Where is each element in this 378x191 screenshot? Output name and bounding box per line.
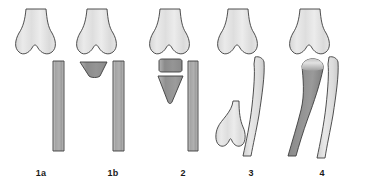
block-fragment-icon (159, 59, 182, 72)
distal-condyle-icon (16, 9, 56, 54)
panel-label-3: 3 (231, 168, 271, 179)
panel-label-1b: 1b (93, 168, 133, 179)
diagram-canvas (0, 0, 378, 191)
panel-4-group (288, 9, 338, 158)
distal-condyle-icon (77, 9, 117, 54)
panel-label-4: 4 (302, 168, 342, 179)
panel-1b-group (77, 9, 124, 151)
distal-condyle-icon (218, 9, 258, 54)
triangular-fragment-icon (158, 76, 183, 104)
lateral-shaft-icon (53, 61, 64, 151)
panel-label-2: 2 (163, 168, 203, 179)
displaced-distal-fragment-icon (216, 101, 245, 146)
panel-3-group (216, 9, 264, 156)
lateral-shaft-icon (113, 61, 124, 151)
panel-2-group (150, 9, 198, 151)
angulated-fragment-icon (288, 59, 323, 156)
wedge-fragment-icon (80, 62, 107, 78)
lateral-shaft-icon (188, 61, 198, 151)
distal-condyle-icon (290, 9, 330, 54)
panel-1a-group (16, 9, 64, 151)
distal-condyle-icon (150, 9, 190, 54)
curved-shaft-icon (243, 57, 264, 156)
panel-label-1a: 1a (21, 168, 61, 179)
fracture-classification-figure: 1a 1b 2 3 4 (0, 0, 378, 191)
